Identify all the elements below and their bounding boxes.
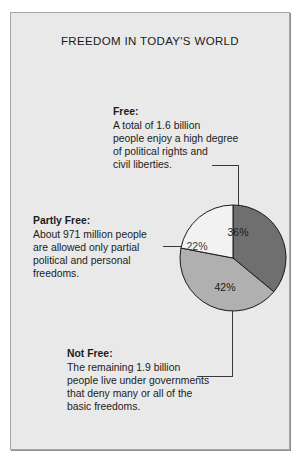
pie-label-partly-free: 22%	[186, 240, 207, 252]
callout-free-heading: Free:	[113, 105, 238, 118]
callout-not-free-body: The remaining 1.9 billion people live un…	[67, 361, 209, 414]
callout-free-line-2: people enjoy a high degree	[113, 132, 238, 145]
callout-not-free: Not Free: The remaining 1.9 billion peop…	[67, 347, 209, 414]
callout-partly-free-line-3: political and personal	[33, 254, 147, 267]
pie-chart: 36% 42% 22%	[178, 203, 288, 313]
callout-partly-free-heading: Partly Free:	[33, 214, 147, 227]
pie-label-free: 36%	[227, 226, 248, 238]
leader-line-free-horizontal	[212, 165, 239, 166]
callout-not-free-line-4: basic freedoms.	[67, 400, 209, 413]
callout-free-line-1: A total of 1.6 billion	[113, 119, 238, 132]
callout-partly-free-line-2: are allowed only partial	[33, 241, 147, 254]
chart-panel: FREEDOM IN TODAY'S WORLD Free: A total o…	[10, 12, 290, 450]
callout-partly-free-line-4: freedoms.	[33, 267, 147, 280]
pie-label-not-free: 42%	[214, 281, 235, 293]
leader-line-not-free-horizontal	[197, 376, 233, 377]
page-title: FREEDOM IN TODAY'S WORLD	[11, 35, 289, 47]
callout-free-line-3: of political rights and	[113, 145, 238, 158]
callout-partly-free-line-1: About 971 million people	[33, 228, 147, 241]
callout-free: Free: A total of 1.6 billion people enjo…	[113, 105, 238, 172]
pie-chart-svg: 36% 42% 22%	[178, 203, 288, 313]
callout-partly-free-body: About 971 million people are allowed onl…	[33, 228, 147, 281]
callout-not-free-line-3: that deny many or all of the	[67, 387, 209, 400]
callout-partly-free: Partly Free: About 971 million people ar…	[33, 214, 147, 281]
callout-free-body: A total of 1.6 billion people enjoy a hi…	[113, 119, 238, 172]
callout-not-free-heading: Not Free:	[67, 347, 209, 360]
leader-line-not-free-vertical	[232, 309, 233, 377]
callout-not-free-line-2: people live under governments	[67, 374, 209, 387]
callout-not-free-line-1: The remaining 1.9 billion	[67, 361, 209, 374]
